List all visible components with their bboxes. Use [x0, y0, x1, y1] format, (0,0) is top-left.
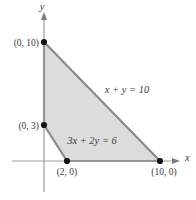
y-axis-label: y — [39, 1, 45, 12]
point-0-3 — [41, 122, 47, 128]
point-2-0 — [64, 158, 70, 164]
label-0-10: (0, 10) — [14, 38, 39, 49]
y-axis-arrow-icon — [41, 12, 47, 20]
x-axis-arrow-icon — [172, 158, 180, 164]
x-axis-label: x — [184, 152, 190, 163]
equation-label-line1: x + y = 10 — [104, 84, 150, 95]
feasible-region-figure: y x (0, 10) (0, 3) (2, 0) (10, 0) x + y … — [0, 0, 196, 200]
label-0-3: (0, 3) — [18, 121, 39, 132]
label-10-0: (10, 0) — [151, 167, 176, 178]
equation-label-line2: 3x + 2y = 6 — [66, 135, 117, 146]
point-10-0 — [157, 158, 163, 164]
label-2-0: (2, 0) — [57, 167, 78, 178]
point-0-10 — [41, 39, 47, 45]
graph-canvas: y x (0, 10) (0, 3) (2, 0) (10, 0) x + y … — [0, 0, 196, 200]
